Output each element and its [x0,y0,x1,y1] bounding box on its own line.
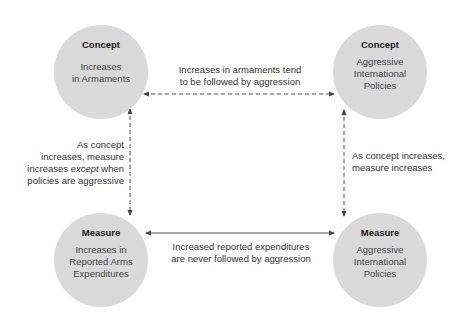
edge-left-label-emphasis: except [71,163,99,174]
node-label: Aggressive International Policies [337,244,423,280]
edge-left-label: As concept increases, measure increases … [4,139,124,187]
node-label: Increases in Armaments [58,61,144,85]
node-measure-expenditures: Measure Increases in Reported Arms Expen… [54,213,148,307]
node-label: Increases in Reported Arms Expenditures [58,244,144,280]
node-measure-policies: Measure Aggressive International Policie… [333,213,427,307]
edge-top-label: Increases in armaments tend to be follow… [170,64,310,88]
node-kind: Concept [54,39,148,50]
node-concept-policies: Concept Aggressive International Policie… [333,25,427,119]
node-label: Aggressive International Policies [337,56,423,92]
edge-right-label: As concept increases, measure increases [352,150,467,174]
node-kind: Concept [333,39,427,50]
edge-bottom-label: Increased reported expenditures are neve… [156,241,326,265]
node-kind: Measure [54,227,148,238]
node-kind: Measure [333,227,427,238]
node-concept-armaments: Concept Increases in Armaments [54,25,148,119]
